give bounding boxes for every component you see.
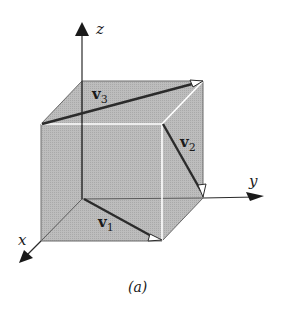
z-axis-label: z: [95, 20, 104, 38]
y-axis-label: y: [248, 172, 258, 190]
cube-vector-diagram: z y x v3 v2 v1 (a): [0, 0, 282, 313]
x-axis-label: x: [18, 231, 27, 249]
x-axis: [26, 241, 41, 256]
figure-caption: (a): [128, 279, 147, 295]
cube: [41, 81, 203, 241]
y-axis: [203, 197, 256, 198]
x-axis-arrowhead-icon: [19, 250, 33, 263]
z-axis-arrowhead-icon: [75, 22, 89, 36]
y-axis-arrowhead-icon: [246, 192, 264, 201]
